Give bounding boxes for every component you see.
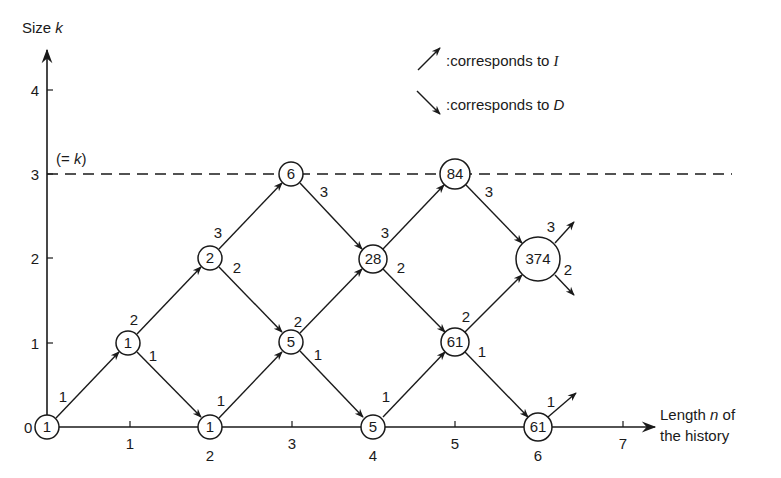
svg-text:1: 1 bbox=[547, 393, 555, 410]
node-6-2: 374 bbox=[516, 237, 560, 281]
svg-text:3: 3 bbox=[485, 183, 493, 200]
svg-text:61: 61 bbox=[530, 418, 547, 435]
node-5-3: 84 bbox=[440, 159, 470, 189]
edge-weight-labels: 1 2 1 1 3 2 2 1 3 1 3 2 2 1 3 1 3 2 bbox=[59, 183, 572, 410]
svg-text:1: 1 bbox=[217, 392, 225, 409]
svg-text:4: 4 bbox=[369, 447, 377, 464]
svg-text:5: 5 bbox=[287, 333, 295, 350]
x-tick-labels: 1 2 3 4 5 6 7 bbox=[126, 435, 627, 464]
node-0-0: 1 bbox=[35, 415, 59, 439]
svg-text:2: 2 bbox=[206, 249, 214, 266]
svg-text:2: 2 bbox=[130, 311, 138, 328]
svg-text:6: 6 bbox=[287, 165, 295, 182]
svg-text:2: 2 bbox=[397, 259, 405, 276]
svg-text:61: 61 bbox=[447, 333, 464, 350]
svg-text:2: 2 bbox=[462, 308, 470, 325]
node-3-1: 5 bbox=[279, 330, 303, 354]
up-right-arrow-icon bbox=[418, 48, 440, 70]
svg-text:7: 7 bbox=[619, 435, 627, 452]
x-axis-label: Length n of bbox=[660, 406, 736, 423]
svg-text:28: 28 bbox=[365, 250, 382, 267]
svg-text:5: 5 bbox=[369, 418, 377, 435]
svg-text:84: 84 bbox=[447, 165, 464, 182]
svg-text:2: 2 bbox=[206, 447, 214, 464]
svg-text:1: 1 bbox=[124, 334, 132, 351]
svg-text:4: 4 bbox=[31, 82, 39, 99]
svg-text:3: 3 bbox=[214, 224, 222, 241]
node-4-0: 5 bbox=[361, 415, 385, 439]
legend-item-i: :corresponds to I bbox=[446, 52, 560, 69]
svg-text:1: 1 bbox=[478, 343, 486, 360]
svg-text:2: 2 bbox=[233, 259, 241, 276]
node-2-2: 2 bbox=[198, 246, 222, 270]
svg-text:2: 2 bbox=[31, 250, 39, 267]
svg-text:3: 3 bbox=[381, 224, 389, 241]
svg-text:6: 6 bbox=[534, 447, 542, 464]
node-1-1: 1 bbox=[116, 331, 140, 355]
svg-text:1: 1 bbox=[206, 418, 214, 435]
x-axis-label-line2: the history bbox=[660, 427, 730, 444]
svg-text:1: 1 bbox=[31, 335, 39, 352]
svg-text:1: 1 bbox=[43, 418, 51, 435]
svg-text:2: 2 bbox=[294, 313, 302, 330]
svg-text:5: 5 bbox=[451, 435, 459, 452]
y-tick-labels: 4 3 2 1 bbox=[31, 82, 39, 352]
svg-text:1: 1 bbox=[382, 388, 390, 405]
lattice-diagram: Size k (= k) 4 3 2 1 0 1 2 3 4 5 6 7 Len… bbox=[0, 0, 781, 478]
svg-text:1: 1 bbox=[126, 435, 134, 452]
svg-text:3: 3 bbox=[547, 218, 555, 235]
svg-text:1: 1 bbox=[314, 346, 322, 363]
svg-text:1: 1 bbox=[59, 388, 67, 405]
node-4-2: 28 bbox=[359, 245, 387, 273]
legend-item-d: :corresponds to D bbox=[446, 96, 565, 113]
legend: :corresponds to I :corresponds to D bbox=[417, 48, 565, 114]
y-ticks bbox=[47, 90, 53, 343]
svg-text:3: 3 bbox=[31, 166, 39, 183]
down-right-arrow-icon bbox=[417, 91, 440, 114]
origin-label: 0 bbox=[24, 419, 32, 436]
svg-text:2: 2 bbox=[564, 261, 572, 278]
svg-text:3: 3 bbox=[288, 435, 296, 452]
node-2-0: 1 bbox=[198, 415, 222, 439]
svg-text:374: 374 bbox=[525, 250, 550, 267]
svg-text:1: 1 bbox=[149, 347, 157, 364]
k-marker-label: (= k) bbox=[56, 150, 86, 167]
node-6-0: 61 bbox=[524, 413, 552, 441]
node-5-1: 61 bbox=[441, 328, 469, 356]
node-3-3: 6 bbox=[279, 162, 303, 186]
edges bbox=[56, 183, 576, 418]
svg-text:3: 3 bbox=[320, 183, 328, 200]
y-axis-label: Size k bbox=[22, 19, 64, 36]
